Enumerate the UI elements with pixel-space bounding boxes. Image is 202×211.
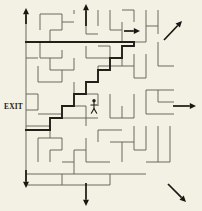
arrow-head-icon [190, 103, 196, 109]
maze-svg [0, 0, 202, 211]
arrow-right-top [124, 28, 140, 34]
arrow-shaft [164, 26, 178, 40]
arrow-down-right-diagonal [168, 184, 186, 202]
arrow-up-right-diagonal [164, 21, 182, 40]
maze-walls [26, 10, 174, 185]
arrow-down-bottom [83, 183, 89, 206]
arrow-up-left [23, 8, 29, 24]
arrow-head-icon [134, 28, 140, 34]
arrow-head-icon [23, 8, 29, 14]
exit-label: EXIT [4, 102, 23, 111]
stick-figure [91, 99, 97, 113]
arrow-up-top [83, 4, 89, 26]
figure-legs [91, 109, 96, 114]
arrow-head-icon [83, 4, 89, 10]
arrow-shaft [168, 184, 182, 198]
arrow-head-icon [83, 200, 89, 206]
figure-head [92, 99, 95, 102]
solution-path [26, 42, 134, 130]
arrow-right-mid [173, 103, 196, 109]
maze-figure: EXIT [0, 0, 202, 211]
